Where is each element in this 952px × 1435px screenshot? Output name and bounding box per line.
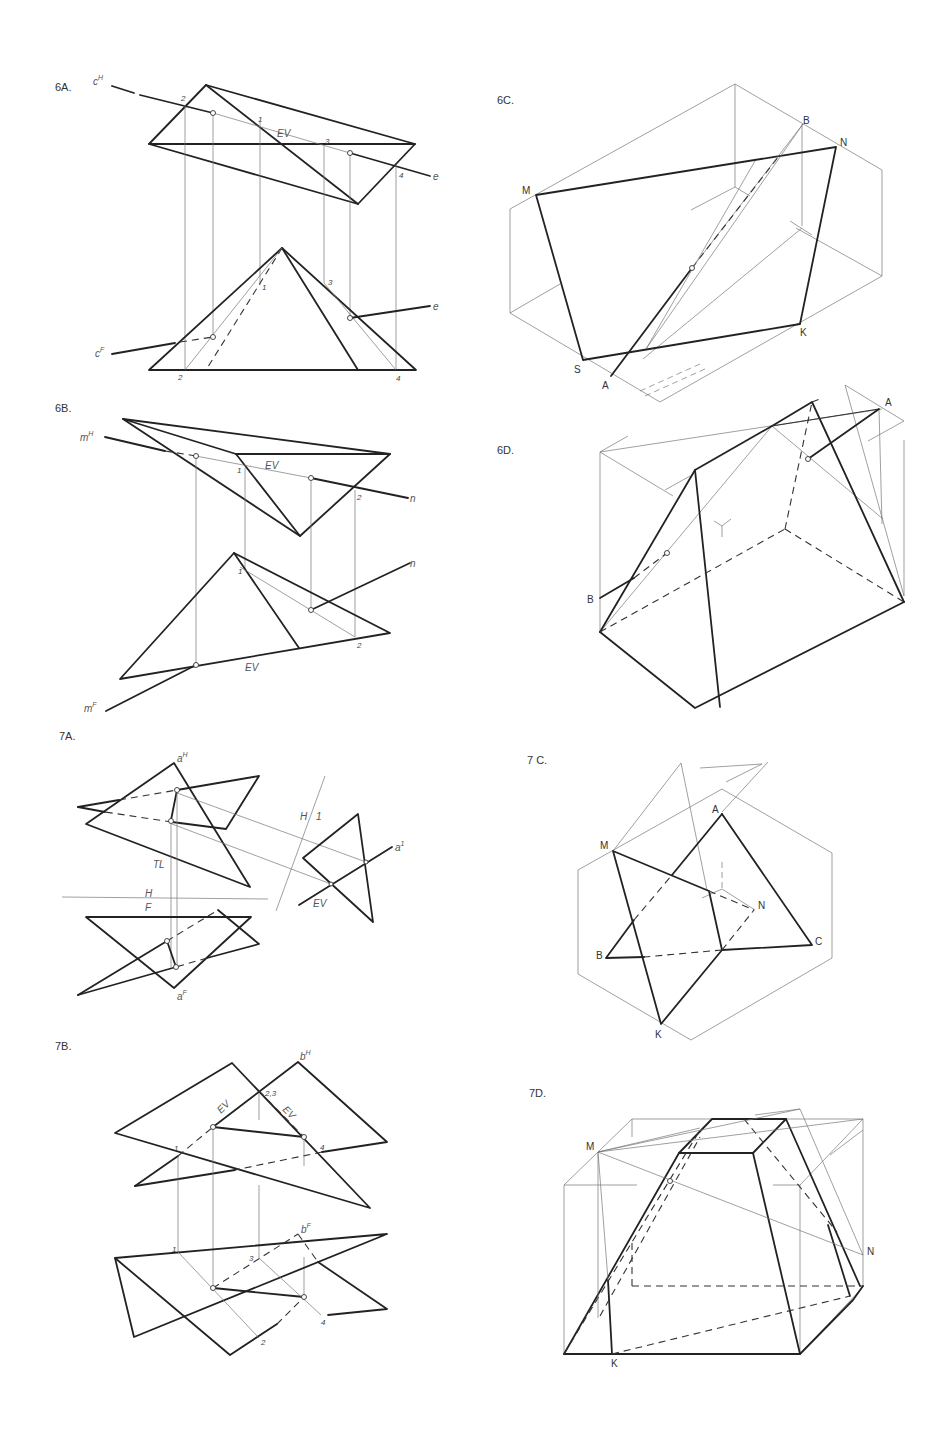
- svg-text:1: 1: [237, 466, 241, 475]
- drawing-page: 6A. cH e EV 2 1 3 4 cF: [0, 0, 952, 1435]
- svg-text:4: 4: [399, 171, 404, 180]
- plane-front-view: [120, 553, 390, 679]
- piercing-point: [348, 151, 353, 156]
- svg-text:EV: EV: [245, 662, 260, 673]
- svg-text:n: n: [410, 558, 416, 569]
- svg-text:e: e: [433, 301, 439, 312]
- svg-text:A: A: [602, 380, 609, 391]
- figure-label-7c: 7 C.: [527, 754, 547, 766]
- svg-text:aF: aF: [177, 989, 188, 1002]
- plane-mnk: [613, 851, 722, 1024]
- svg-text:H: H: [145, 888, 153, 899]
- figure-7c: 7 C. A M N B C K: [527, 754, 832, 1040]
- fold-line-h-1: [276, 776, 325, 911]
- svg-text:B: B: [803, 115, 810, 126]
- figure-label-7a: 7A.: [59, 730, 76, 742]
- svg-text:4: 4: [396, 374, 401, 383]
- plane-front-view: [149, 248, 416, 370]
- svg-text:2,3: 2,3: [264, 1089, 277, 1098]
- svg-text:2: 2: [180, 94, 186, 103]
- figure-label-7d: 7D.: [529, 1087, 546, 1099]
- svg-text:M: M: [522, 185, 530, 196]
- svg-text:2: 2: [356, 641, 362, 650]
- ev-label: EV: [277, 128, 292, 139]
- triangle-abc: [722, 814, 812, 950]
- figure-7a: 7A. aH TL H F H 1 a1 EV: [59, 730, 405, 1002]
- svg-text:TL: TL: [153, 859, 165, 870]
- svg-text:mF: mF: [84, 701, 97, 714]
- fold-line-h-f: [62, 897, 268, 899]
- svg-text:N: N: [758, 900, 765, 911]
- svg-text:2: 2: [177, 373, 183, 382]
- svg-text:2: 2: [356, 493, 362, 502]
- svg-text:M: M: [586, 1141, 594, 1152]
- figure-6b: 6B. mH n EV 1 2 mF n EV 1 2: [55, 402, 416, 714]
- figure-label-6a: 6A.: [55, 81, 72, 93]
- svg-text:K: K: [800, 327, 807, 338]
- descriptive-geometry-plates: 6A. cH e EV 2 1 3 4 cF: [0, 0, 952, 1435]
- figure-6c: 6C. M B N S A K: [497, 84, 882, 402]
- svg-text:mH: mH: [80, 430, 94, 443]
- svg-text:C: C: [815, 936, 822, 947]
- svg-text:B: B: [587, 594, 594, 605]
- piercing-point: [211, 111, 216, 116]
- plane-1-front-a: [115, 1234, 387, 1337]
- svg-text:2: 2: [260, 1338, 266, 1347]
- svg-text:S: S: [574, 364, 581, 375]
- svg-text:N: N: [840, 137, 847, 148]
- svg-text:EV: EV: [281, 1104, 299, 1122]
- svg-text:EV: EV: [265, 460, 280, 471]
- svg-text:H: H: [300, 811, 308, 822]
- svg-text:3: 3: [249, 1254, 254, 1263]
- figure-7d: 7D. M N K: [529, 1087, 874, 1369]
- figure-6d: 6D. A B: [497, 385, 904, 708]
- figure-label-6b: 6B.: [55, 402, 72, 414]
- svg-text:1: 1: [172, 1245, 176, 1254]
- svg-text:e: e: [433, 171, 439, 182]
- plane-top-view: [123, 419, 390, 536]
- svg-text:cH: cH: [93, 74, 104, 87]
- box-outline: [564, 1119, 863, 1354]
- hexagon-box: [578, 789, 832, 1040]
- svg-text:a1: a1: [395, 840, 405, 853]
- svg-text:EV: EV: [313, 898, 328, 909]
- svg-text:1: 1: [262, 283, 266, 292]
- svg-text:4: 4: [321, 1318, 326, 1327]
- svg-text:bF: bF: [301, 1222, 312, 1235]
- svg-text:A: A: [712, 804, 719, 815]
- svg-text:EV: EV: [215, 1097, 233, 1115]
- figure-label-6d: 6D.: [497, 444, 514, 456]
- svg-text:1: 1: [238, 567, 242, 576]
- figure-label-7b: 7B.: [55, 1040, 72, 1052]
- line-b: [600, 578, 634, 598]
- svg-text:M: M: [600, 840, 608, 851]
- bounding-box: [510, 84, 882, 402]
- svg-text:1: 1: [174, 1144, 178, 1153]
- svg-text:F: F: [145, 902, 152, 913]
- figure-label-6c: 6C.: [497, 94, 514, 106]
- svg-text:cF: cF: [95, 346, 105, 359]
- svg-text:aH: aH: [177, 751, 189, 764]
- svg-text:K: K: [611, 1358, 618, 1369]
- figure-6a: 6A. cH e EV 2 1 3 4 cF: [55, 74, 439, 383]
- svg-text:n: n: [410, 493, 416, 504]
- svg-text:N: N: [867, 1246, 874, 1257]
- frustum-base: [600, 602, 904, 708]
- svg-text:bH: bH: [300, 1049, 312, 1062]
- svg-text:A: A: [885, 397, 892, 408]
- svg-text:3: 3: [325, 137, 330, 146]
- svg-text:4: 4: [320, 1143, 325, 1152]
- svg-text:3: 3: [328, 278, 333, 287]
- svg-text:B: B: [596, 950, 603, 961]
- svg-text:K: K: [655, 1029, 662, 1040]
- figure-7b: 7B. bH EV EV 2,3 1 4 bF 1 3: [55, 1040, 387, 1355]
- svg-text:1: 1: [316, 811, 322, 822]
- plane-1-top: [115, 1063, 370, 1208]
